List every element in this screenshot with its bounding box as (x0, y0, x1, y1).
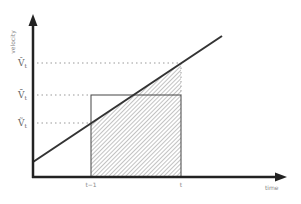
y-label-v-bar: V̄t (17, 89, 28, 101)
y-label-v-hat: V̂t (17, 57, 28, 69)
velocity-time-diagram: velocity time t−1 t V̂t V̄t Ṽt (0, 0, 301, 204)
hatched-area (91, 63, 181, 177)
x-axis-arrow-icon (275, 173, 287, 182)
y-label-v-tilde: Ṽt (17, 117, 28, 129)
y-axis-arrow-icon (29, 14, 38, 26)
y-axis-label: velocity (9, 30, 17, 54)
x-tick-t-minus-1: t−1 (85, 181, 96, 188)
x-tick-t: t (180, 181, 183, 188)
x-axis-label: time (265, 184, 279, 191)
